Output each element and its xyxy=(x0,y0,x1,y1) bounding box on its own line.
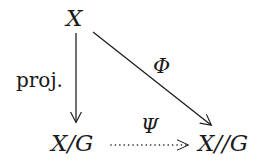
edge-phi-line xyxy=(93,32,211,125)
node-x-mod-g: X/G xyxy=(51,132,94,155)
node-x: X xyxy=(66,7,82,30)
commutative-diagram: X X/G X//G proj. Φ Ψ xyxy=(0,0,275,165)
edge-label-projection: proj. xyxy=(16,70,63,90)
node-x-modmod-g: X//G xyxy=(198,132,248,155)
edge-label-psi: Ψ xyxy=(141,116,159,136)
edge-label-phi: Φ xyxy=(153,56,170,77)
